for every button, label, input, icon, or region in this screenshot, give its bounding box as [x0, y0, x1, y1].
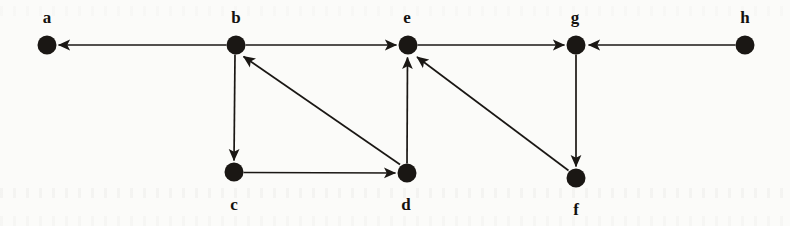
- edge-f-to-e: [417, 57, 569, 171]
- node-b[interactable]: [227, 36, 246, 55]
- node-label-c: c: [221, 196, 247, 213]
- node-f[interactable]: [567, 169, 586, 188]
- node-d[interactable]: [398, 164, 417, 183]
- node-a[interactable]: [38, 36, 57, 55]
- node-label-g: g: [562, 9, 588, 26]
- node-label-f: f: [563, 201, 589, 218]
- node-layer: [38, 36, 755, 188]
- directed-graph-figure: a b e g h c d f: [0, 0, 790, 226]
- edge-b-to-c: [234, 55, 235, 161]
- node-g[interactable]: [567, 36, 586, 55]
- graph-canvas: [0, 0, 790, 226]
- edge-layer: [59, 45, 736, 173]
- edge-c-to-d: [244, 173, 396, 174]
- node-label-d: d: [393, 196, 419, 213]
- node-label-h: h: [732, 9, 758, 26]
- node-label-b: b: [223, 9, 249, 26]
- node-label-a: a: [34, 9, 60, 26]
- node-h[interactable]: [736, 36, 755, 55]
- node-label-e: e: [394, 9, 420, 26]
- node-c[interactable]: [225, 163, 244, 182]
- edge-d-to-b: [244, 57, 401, 165]
- node-e[interactable]: [399, 36, 418, 55]
- edge-d-to-e: [407, 58, 408, 164]
